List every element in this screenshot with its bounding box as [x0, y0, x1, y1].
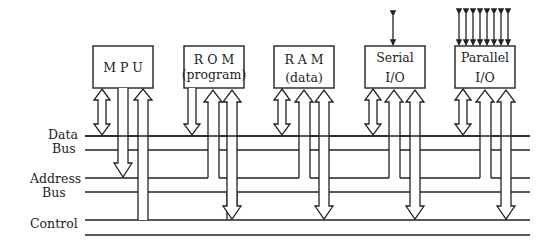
serial-data-double-arrow	[365, 89, 381, 135]
serial-io-sublabel: I/O	[385, 70, 404, 85]
address-bus	[85, 178, 530, 192]
rom-control-down-arrow	[223, 193, 241, 219]
control-bus-label: Control	[30, 216, 78, 231]
parallel-address-arrow	[476, 90, 494, 178]
ram-address-arrow	[295, 90, 313, 178]
module-mpu: M P U	[93, 46, 153, 220]
module-rom: R O M (program)	[182, 46, 247, 220]
ram-label: R A M	[284, 52, 323, 67]
ram-sublabel: (data)	[285, 70, 323, 85]
data-bus-label-2: Bus	[52, 141, 76, 156]
serial-io-label: Serial	[376, 50, 413, 65]
parallel-io-label: Parallel	[461, 50, 509, 65]
mpu-label: M P U	[103, 60, 143, 75]
address-bus-label-2: Bus	[42, 185, 66, 200]
address-bus-label: Address	[29, 171, 81, 186]
parallel-data-double-arrow	[455, 89, 471, 135]
serial-control-down-arrow	[406, 193, 424, 219]
module-ram: R A M (data)	[274, 46, 334, 219]
data-bus-label: Data	[48, 127, 78, 142]
module-parallel-io: Parallel I/O	[455, 14, 515, 219]
serial-address-arrow	[385, 90, 403, 178]
rom-sublabel: (program)	[182, 67, 247, 82]
mpu-control-arrow	[134, 89, 152, 220]
rom-data-arrow	[184, 88, 200, 135]
ram-control-down-arrow	[315, 193, 333, 219]
parallel-io-sublabel: I/O	[475, 70, 494, 85]
control-bus	[85, 220, 530, 235]
bus-diagram: Data Bus Address Bus Control M P U R O M…	[0, 0, 556, 252]
parallel-external-lines	[459, 14, 508, 45]
mpu-data-double-arrow	[94, 89, 110, 135]
mpu-address-arrow	[114, 88, 132, 177]
ram-data-double-arrow	[274, 89, 290, 135]
rom-label: R O M	[194, 52, 235, 67]
module-serial-io: Serial I/O	[365, 16, 425, 219]
parallel-control-down-arrow	[497, 193, 515, 219]
rom-address-arrow	[204, 90, 222, 178]
